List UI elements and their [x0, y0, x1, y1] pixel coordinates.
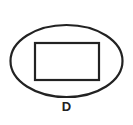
diagram-label: D [0, 99, 133, 114]
inner-rectangle [35, 43, 99, 80]
outer-ellipse [11, 25, 123, 97]
